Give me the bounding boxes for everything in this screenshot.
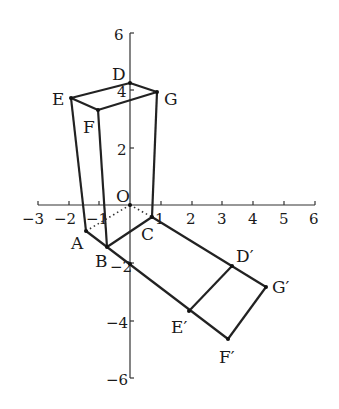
x-tick-label: 4 (248, 210, 258, 228)
edge-G-C (152, 92, 157, 217)
label-D-prime: D′ (236, 246, 254, 266)
y-tick-label: 6 (114, 26, 124, 44)
x-tick-label: 2 (186, 210, 196, 228)
y-tick-label: 2 (117, 141, 127, 159)
label-G-prime: G′ (272, 277, 290, 297)
x-tick-label: 3 (217, 210, 227, 228)
y-tick-label: −4 (106, 314, 128, 332)
y-tick-label: −6 (106, 371, 128, 389)
x-tick-label: −2 (54, 210, 76, 228)
x-tick-label: 6 (309, 210, 319, 228)
origin-label: O (116, 186, 130, 206)
edge-Gprime-Fprime (228, 287, 266, 339)
y-tick-label: −2 (110, 258, 132, 276)
label-D: D (112, 64, 126, 84)
label-C: C (141, 224, 154, 244)
diagram-canvas: −3 −2 −1 1 2 3 4 5 6 6 4 2 −2 −4 −6 O (0, 0, 339, 409)
edge-Dprime-Eprime (189, 266, 232, 311)
label-F-prime: F′ (219, 347, 235, 367)
label-G: G (164, 89, 178, 109)
label-B: B (95, 251, 108, 271)
label-A: A (70, 233, 84, 253)
x-tick-label: 5 (279, 210, 289, 228)
label-F: F (83, 117, 95, 137)
edge-O-C (130, 205, 152, 217)
x-tick-label: −3 (22, 210, 44, 228)
label-E: E (52, 89, 64, 109)
prism (71, 83, 157, 247)
label-E-prime: E′ (171, 317, 187, 337)
top-face (71, 83, 157, 110)
